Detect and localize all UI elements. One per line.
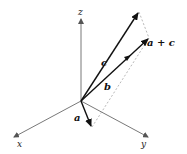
x-axis bbox=[14, 101, 81, 137]
vector-diagram: z x y c b a a + c bbox=[0, 0, 187, 154]
z-axis-label: z bbox=[77, 7, 83, 17]
y-axis-label: y bbox=[140, 139, 147, 149]
x-axis-label: x bbox=[17, 139, 22, 149]
vector-c-label: c bbox=[101, 57, 107, 68]
vector-a bbox=[81, 101, 91, 126]
y-axis bbox=[81, 101, 148, 137]
vector-sum-label: a + c bbox=[147, 37, 175, 48]
vector-b-label: b bbox=[104, 81, 111, 92]
dashed-c-to-sum bbox=[139, 12, 149, 38]
vector-a-label: a bbox=[74, 112, 80, 123]
